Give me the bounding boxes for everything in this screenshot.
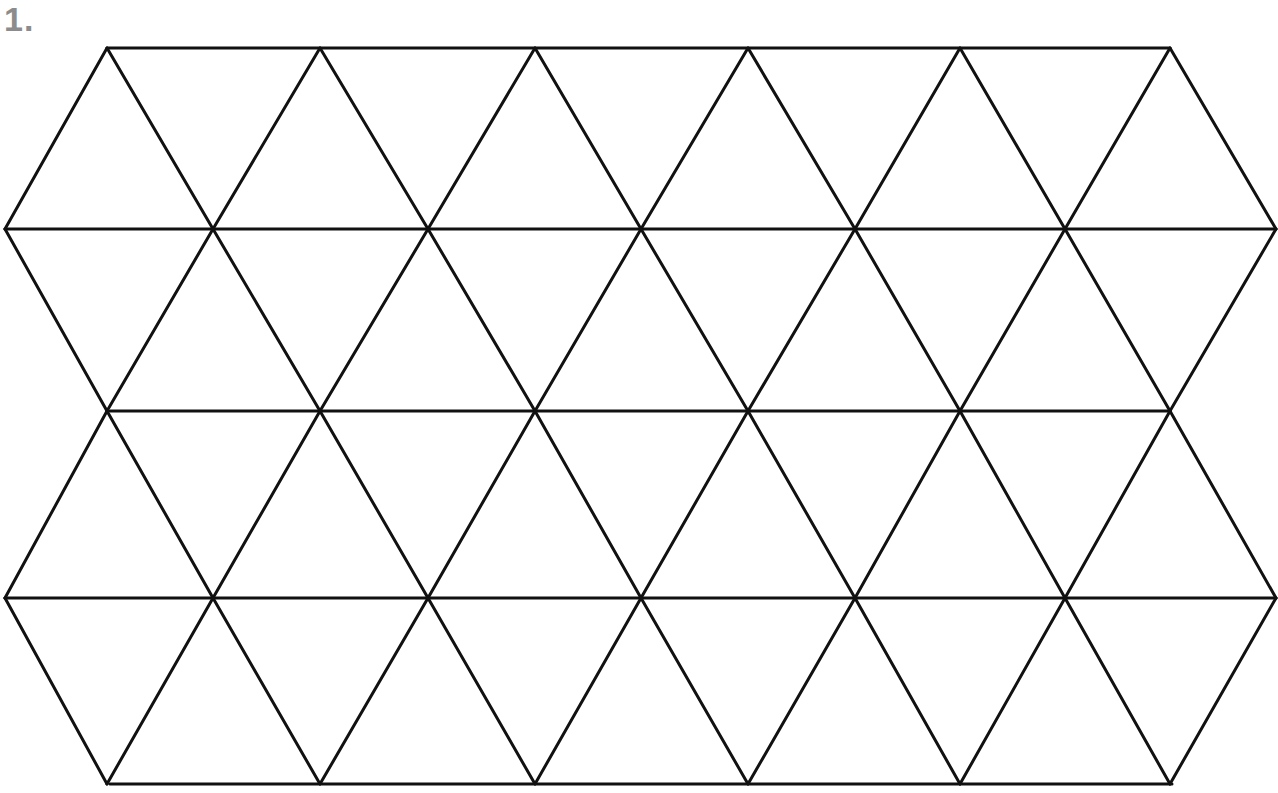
grid-diagonal-r2-2-right xyxy=(428,229,535,411)
grid-diagonal-r2-5-left xyxy=(960,229,1065,411)
grid-diagonal-r3-5-left xyxy=(1065,411,1170,598)
grid-diagonal-r3-2-left xyxy=(428,411,535,598)
grid-diagonal-r3-5-right xyxy=(1170,411,1276,598)
grid-diagonal-r4-4-right xyxy=(855,598,960,784)
grid-diagonal-r4-0-right xyxy=(5,598,107,784)
grid-diagonal-r1-4-right xyxy=(960,48,1065,229)
grid-diagonal-r1-3-left xyxy=(641,48,748,229)
grid-diagonal-r1-2-left xyxy=(428,48,535,229)
grid-diagonal-r3-1-right xyxy=(320,411,428,598)
grid-diagonal-r1-5-right xyxy=(1170,48,1276,229)
grid-diagonal-r2-6-left xyxy=(1170,229,1276,411)
grid-diagonal-r3-2-right xyxy=(535,411,641,598)
grid-diagonal-r3-0-right xyxy=(107,411,213,598)
grid-diagonal-r3-4-left xyxy=(855,411,960,598)
grid-diagonal-r2-3-right xyxy=(641,229,748,411)
grid-diagonal-r3-3-right xyxy=(748,411,855,598)
grid-diagonal-r3-1-left xyxy=(213,411,320,598)
grid-diagonal-r1-0-left xyxy=(5,48,107,229)
grid-diagonal-r2-3-left xyxy=(535,229,641,411)
grid-diagonal-r2-0-right xyxy=(5,229,107,411)
grid-diagonal-r4-5-right xyxy=(1065,598,1170,784)
grid-diagonal-r2-2-left xyxy=(320,229,428,411)
grid-diagonal-r4-6-left xyxy=(1170,598,1276,784)
grid-diagonal-r1-4-left xyxy=(855,48,960,229)
grid-diagonal-r3-4-right xyxy=(960,411,1065,598)
grid-diagonal-r4-1-left xyxy=(107,598,213,784)
grid-diagonal-r4-3-right xyxy=(641,598,748,784)
grid-diagonal-r1-1-right xyxy=(320,48,428,229)
grid-diagonal-r2-5-right xyxy=(1065,229,1170,411)
grid-diagonal-r2-4-right xyxy=(855,229,960,411)
grid-diagonal-r1-1-left xyxy=(213,48,320,229)
grid-diagonal-r2-4-left xyxy=(748,229,855,411)
grid-diagonal-r2-1-right xyxy=(213,229,320,411)
grid-horizontal-lines xyxy=(5,48,1276,784)
grid-diagonal-r1-5-left xyxy=(1065,48,1170,229)
grid-diagonal-r4-2-right xyxy=(428,598,535,784)
worksheet-page: 1. xyxy=(0,0,1278,793)
grid-diagonal-r1-3-right xyxy=(748,48,855,229)
triangular-grid-figure xyxy=(0,0,1278,793)
grid-diagonal-r4-4-left xyxy=(748,598,855,784)
grid-diagonal-r1-0-right xyxy=(107,48,213,229)
grid-diagonal-r4-5-left xyxy=(960,598,1065,784)
grid-diagonal-lines xyxy=(5,48,1276,784)
grid-diagonal-r4-1-right xyxy=(213,598,320,784)
grid-diagonal-r3-3-left xyxy=(641,411,748,598)
grid-diagonal-r1-2-right xyxy=(535,48,641,229)
grid-diagonal-r4-3-left xyxy=(535,598,641,784)
grid-diagonal-r2-1-left xyxy=(107,229,213,411)
grid-diagonal-r3-0-left xyxy=(5,411,107,598)
grid-diagonal-r4-2-left xyxy=(320,598,428,784)
